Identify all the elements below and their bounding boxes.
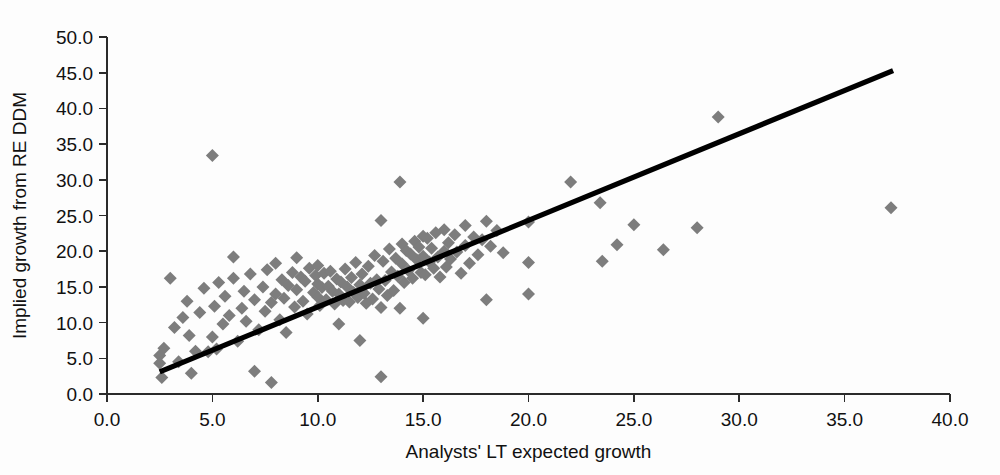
- scatter-point: [884, 201, 897, 214]
- scatter-point: [185, 367, 198, 380]
- scatter-point: [417, 312, 430, 325]
- scatter-point: [471, 248, 484, 261]
- scatter-point: [168, 321, 181, 334]
- scatter-point: [596, 255, 609, 268]
- scatter-point: [611, 238, 624, 251]
- scatter-point: [497, 246, 510, 259]
- scatter-point: [332, 318, 345, 331]
- y-axis-title: Implied growth from RE DDM: [9, 92, 30, 339]
- scatter-chart-figure: 0.05.010.015.020.025.030.035.040.045.050…: [0, 0, 1000, 475]
- scatter-point: [594, 196, 607, 209]
- scatter-point: [455, 267, 468, 280]
- chart-canvas: 0.05.010.015.020.025.030.035.040.045.050…: [0, 0, 1000, 475]
- y-axis-ticks: 0.05.010.015.020.025.030.035.040.045.050…: [56, 27, 107, 405]
- scatter-point: [227, 250, 240, 263]
- scatter-points: [153, 110, 897, 389]
- scatter-point: [240, 315, 253, 328]
- y-tick-label: 25.0: [56, 206, 93, 227]
- scatter-point: [206, 149, 219, 162]
- scatter-point: [349, 256, 362, 269]
- y-tick-label: 15.0: [56, 277, 93, 298]
- scatter-point: [383, 243, 396, 256]
- scatter-point: [480, 293, 493, 306]
- y-tick-label: 20.0: [56, 241, 93, 262]
- scatter-point: [181, 295, 194, 308]
- scatter-point: [227, 272, 240, 285]
- x-tick-label: 5.0: [199, 409, 225, 430]
- y-tick-label: 40.0: [56, 98, 93, 119]
- x-axis-title: Analysts' LT expected growth: [406, 441, 652, 462]
- y-tick-label: 50.0: [56, 27, 93, 48]
- scatter-point: [235, 302, 248, 315]
- y-tick-label: 45.0: [56, 63, 93, 84]
- scatter-point: [353, 334, 366, 347]
- scatter-point: [164, 272, 177, 285]
- scatter-point: [265, 376, 278, 389]
- scatter-point: [248, 293, 261, 306]
- scatter-point: [374, 370, 387, 383]
- x-tick-label: 20.0: [510, 409, 547, 430]
- scatter-point: [244, 268, 257, 281]
- x-tick-label: 0.0: [94, 409, 120, 430]
- scatter-point: [219, 290, 232, 303]
- scatter-point: [212, 276, 225, 289]
- scatter-point: [237, 285, 250, 298]
- scatter-point: [393, 175, 406, 188]
- y-tick-label: 0.0: [67, 384, 93, 405]
- x-tick-label: 30.0: [721, 409, 758, 430]
- x-axis-ticks: 0.05.010.015.020.025.030.035.040.0: [94, 394, 969, 430]
- scatter-point: [691, 221, 704, 234]
- scatter-point: [522, 256, 535, 269]
- scatter-point: [374, 301, 387, 314]
- scatter-point: [463, 257, 476, 270]
- scatter-point: [280, 326, 293, 339]
- scatter-point: [480, 215, 493, 228]
- x-tick-label: 15.0: [405, 409, 442, 430]
- scatter-point: [393, 302, 406, 315]
- scatter-point: [564, 175, 577, 188]
- trend-line: [160, 71, 893, 372]
- scatter-point: [197, 282, 210, 295]
- scatter-point: [176, 311, 189, 324]
- scatter-point: [183, 329, 196, 342]
- scatter-point: [627, 218, 640, 231]
- scatter-point: [193, 306, 206, 319]
- x-tick-label: 40.0: [932, 409, 969, 430]
- scatter-point: [522, 288, 535, 301]
- scatter-point: [206, 330, 219, 343]
- y-tick-label: 5.0: [67, 348, 93, 369]
- scatter-point: [256, 280, 269, 293]
- y-tick-label: 10.0: [56, 313, 93, 334]
- scatter-point: [248, 365, 261, 378]
- y-tick-label: 30.0: [56, 170, 93, 191]
- scatter-point: [208, 300, 221, 313]
- scatter-point: [712, 110, 725, 123]
- scatter-point: [657, 243, 670, 256]
- x-tick-label: 10.0: [299, 409, 336, 430]
- x-tick-label: 35.0: [826, 409, 863, 430]
- scatter-point: [459, 219, 472, 232]
- scatter-point: [290, 251, 303, 264]
- y-tick-label: 35.0: [56, 134, 93, 155]
- x-tick-label: 25.0: [615, 409, 652, 430]
- scatter-point: [374, 214, 387, 227]
